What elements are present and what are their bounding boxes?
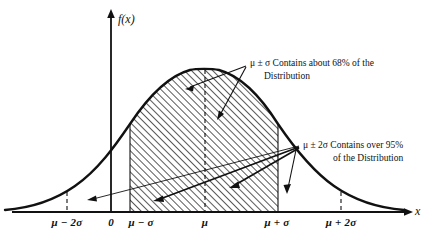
annotation-two-sigma-line1: μ ± 2σ Contains over 95% — [303, 140, 403, 150]
normal-distribution-figure: f(x) x μ − 2σ 0 μ − σ μ μ + σ μ + 2σ μ ±… — [0, 0, 431, 244]
x-axis-label: x — [415, 204, 420, 219]
x-axis-arrowhead — [404, 208, 413, 216]
tick-label-minus-2-sigma: μ − 2σ — [52, 216, 83, 228]
tick-label-minus-sigma: μ − σ — [128, 216, 153, 228]
annotation-one-sigma-line2: Distribution — [250, 70, 374, 83]
annotation-one-sigma-line1: μ ± σ Contains about 68% of the — [250, 58, 374, 68]
tick-label-mean: μ — [202, 216, 208, 228]
tick-label-plus-sigma: μ + σ — [265, 216, 290, 228]
distribution-plot-svg — [0, 0, 431, 244]
shaded-region-one-sigma — [130, 60, 278, 212]
annotation-one-sigma: μ ± σ Contains about 68% of the Distribu… — [250, 57, 374, 82]
annotation-two-sigma-line2: of the Distribution — [303, 152, 403, 165]
tick-label-origin: 0 — [108, 216, 114, 228]
tick-label-plus-2-sigma: μ + 2σ — [326, 216, 357, 228]
y-axis-label: f(x) — [118, 12, 135, 27]
annotation-two-sigma: μ ± 2σ Contains over 95% of the Distribu… — [303, 139, 403, 164]
y-axis-arrowhead — [107, 9, 115, 18]
